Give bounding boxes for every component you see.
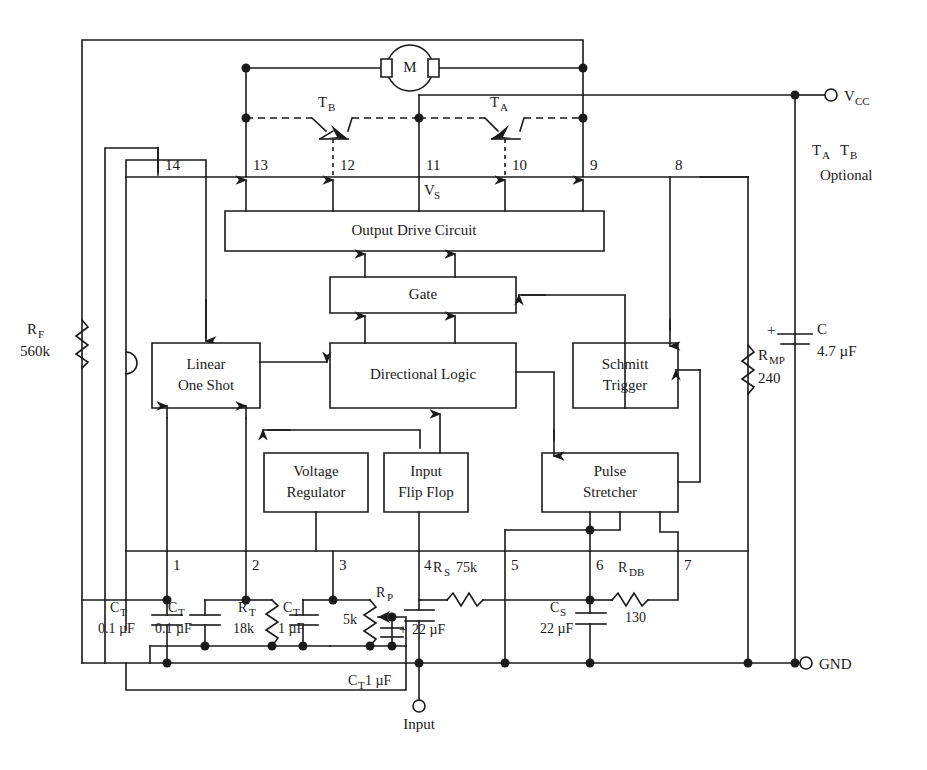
- resistor-rdb-symbol: [612, 593, 648, 606]
- cs-value: 22 µF: [540, 621, 574, 636]
- linear-one-shot-label-1: Linear: [186, 356, 225, 372]
- dot-ps-bottom: [586, 526, 595, 535]
- input-flip-flop-label-1: Input: [410, 463, 442, 479]
- ct1-value: 0.1 µF: [98, 621, 135, 636]
- c-name: C: [817, 321, 827, 337]
- dot-gnd-ct3: [299, 642, 308, 651]
- cin-value: 22 µF: [412, 622, 446, 637]
- rf-sub: F: [38, 328, 44, 340]
- wire-dirlogic-feedback: [268, 430, 420, 448]
- dot-gnd-ct1: [163, 659, 172, 668]
- ct3-value: 1 µF: [278, 621, 305, 636]
- dot-gnd-c: [791, 659, 800, 668]
- ct1-name: C: [110, 600, 119, 615]
- transistor-labels: T B T A: [318, 94, 508, 113]
- rmp-sub: MP: [769, 354, 785, 366]
- vcc-label: V: [844, 88, 855, 104]
- ct3-sub: T: [293, 606, 300, 618]
- cs-sub: S: [560, 606, 566, 618]
- cin-plus: +: [399, 622, 407, 637]
- rmp-name: R: [758, 347, 768, 363]
- dot-gnd-ct2: [201, 642, 210, 651]
- bottom-component-network: C T 0.1 µF C T 0.1 µF R T 18k: [82, 551, 678, 691]
- dot-node-pin1: [163, 596, 172, 605]
- ta-label: T: [490, 94, 499, 110]
- dot-gnd-rmp: [744, 659, 753, 668]
- capacitor-cs-symbol: [576, 600, 606, 663]
- rdb-name: R: [618, 560, 628, 575]
- pin-label-5: 5: [511, 557, 519, 573]
- pin-label-1: 1: [173, 557, 181, 573]
- wire-pin5-link: [505, 512, 620, 530]
- input-label: Input: [403, 716, 435, 732]
- voltage-regulator-label-2: Regulator: [286, 484, 345, 500]
- motor-label: M: [403, 59, 416, 75]
- optional-transistor-bus: [246, 118, 583, 177]
- linear-one-shot-label-2: One Shot: [178, 377, 235, 393]
- dot-gnd-pin5: [501, 659, 510, 668]
- circuit-schematic: M Output Drive Circuit Gate Linear One S…: [0, 0, 927, 770]
- ct2-sub: T: [178, 606, 185, 618]
- pin-label-11: 11: [426, 157, 440, 173]
- ct2-value: 0.1 µF: [155, 621, 192, 636]
- block-voltage-regulator[interactable]: [264, 453, 368, 512]
- note-ta: T: [812, 142, 821, 158]
- pin-label-10: 10: [512, 157, 527, 173]
- note-optional: Optional: [820, 167, 873, 183]
- ct4-name: C: [348, 673, 357, 688]
- dot-gnd-cs: [586, 659, 595, 668]
- schematic-canvas: M Output Drive Circuit Gate Linear One S…: [0, 0, 927, 770]
- terminals: V CC GND Input: [403, 88, 870, 732]
- pin-label-8: 8: [675, 157, 683, 173]
- c-plus: +: [767, 322, 775, 338]
- rp-name: R: [376, 585, 386, 600]
- vcc-terminal[interactable]: [825, 89, 837, 101]
- pin-label-14: 14: [165, 157, 181, 173]
- pin-label-13: 13: [253, 157, 268, 173]
- wire-rdb-right: [648, 551, 678, 600]
- note-tb: T: [840, 142, 849, 158]
- dot-node-pin6: [586, 596, 595, 605]
- block-input-flip-flop[interactable]: [384, 453, 468, 512]
- vcc-sub: CC: [855, 95, 870, 107]
- input-terminal[interactable]: [413, 700, 425, 712]
- ct4-value: 1 µF: [365, 673, 392, 688]
- gate-label: Gate: [409, 286, 438, 302]
- rs-sub: S: [444, 566, 450, 578]
- dot-gnd-rt: [268, 642, 277, 651]
- right-components: R MP 240 + C 4.7 µF: [742, 321, 857, 394]
- pulse-stretcher-label-2: Stretcher: [583, 484, 637, 500]
- gnd-terminal[interactable]: [800, 657, 812, 669]
- wire-dirlogic-pulsestretcher: [516, 372, 554, 440]
- capacitor-ct2-symbol: [190, 615, 220, 646]
- ct3-name: C: [283, 600, 292, 615]
- rt-value: 18k: [233, 621, 254, 636]
- output-drive-circuit-label: Output Drive Circuit: [352, 222, 478, 238]
- wire-ps-pin7: [660, 512, 678, 551]
- dot-pin13-top: [242, 64, 251, 73]
- dot-gnd-ct4: [388, 642, 397, 651]
- pin-label-2: 2: [252, 557, 260, 573]
- pin-label-7: 7: [684, 557, 692, 573]
- note-tb-sub: B: [850, 149, 857, 161]
- tb-sub: B: [328, 101, 335, 113]
- dot-pin9-top: [579, 64, 588, 73]
- block-pulse-stretcher[interactable]: [542, 453, 678, 512]
- dot-bus-9: [579, 114, 588, 123]
- resistor-rt-symbol: [266, 600, 278, 646]
- rf-labels: R F 560k: [20, 321, 51, 359]
- pin-label-4: 4: [424, 557, 432, 573]
- dot-node-pin2: [242, 596, 251, 605]
- pulse-stretcher-label-1: Pulse: [594, 463, 627, 479]
- directional-logic-label: Directional Logic: [370, 366, 477, 382]
- dot-bus-11: [415, 114, 424, 123]
- dot-vcc: [791, 91, 800, 100]
- ct1-sub: T: [120, 606, 127, 618]
- rdb-sub: DB: [629, 566, 644, 578]
- voltage-regulator-label-1: Voltage: [293, 463, 339, 479]
- pin-label-9: 9: [590, 157, 598, 173]
- optional-note: T A T B Optional: [812, 142, 873, 183]
- pin-label-3: 3: [339, 557, 347, 573]
- wire-ps-schmitt-right: [678, 370, 700, 482]
- block-linear-one-shot[interactable]: [152, 343, 260, 408]
